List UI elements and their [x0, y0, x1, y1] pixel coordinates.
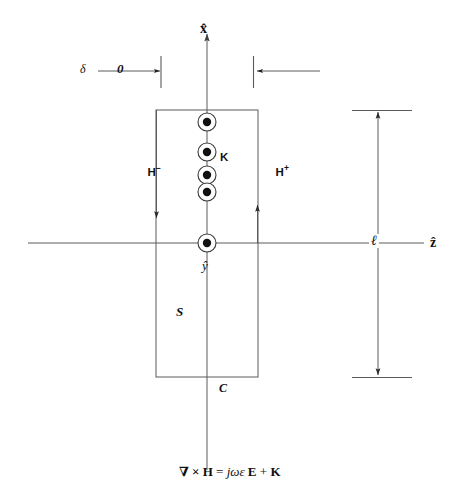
label-contour-c: C [219, 382, 227, 394]
current-dot-origin [198, 234, 216, 252]
current-dot [198, 143, 216, 161]
equation-h-field: H [203, 464, 213, 479]
diagram-svg [0, 0, 470, 499]
axis-label-z-hat: ẑ [430, 236, 436, 250]
label-length-ell: ℓ [369, 234, 379, 248]
equation-e-field: E [248, 464, 257, 479]
axis-label-x-hat: x̂ [200, 22, 207, 36]
label-h-plus: H+ [262, 155, 289, 190]
equation-k-field: K [270, 464, 280, 479]
figure-canvas: x̂ ẑ ŷ H− H+ K S C ℓ δ 0 ∇ × H = jωε E … [0, 0, 470, 499]
label-surface-s: S [176, 305, 183, 318]
label-delta: δ [80, 63, 86, 75]
current-dot [198, 166, 216, 184]
axis-label-y-hat: ŷ [202, 259, 208, 272]
right-measure-arrow [254, 56, 321, 88]
label-h-plus-sign: + [284, 163, 289, 173]
label-h-minus-sign: − [156, 163, 161, 173]
label-h-plus-symbol: H [276, 166, 285, 178]
length-dimension [352, 111, 412, 378]
current-dot [198, 183, 216, 201]
delta-measure-arrow [98, 56, 161, 88]
current-dot [198, 113, 216, 131]
label-h-minus-symbol: H [148, 166, 157, 178]
equation-curl-operator: ∇ [179, 464, 189, 479]
label-delta-limit-zero: 0 [117, 62, 124, 75]
equation-maxwell-ampere: ∇ × H = jωε E + K [166, 452, 281, 491]
label-h-minus: H− [134, 155, 161, 190]
label-current-sheet-k: K [220, 152, 228, 164]
equation-j-omega-epsilon: jωε [227, 464, 245, 479]
